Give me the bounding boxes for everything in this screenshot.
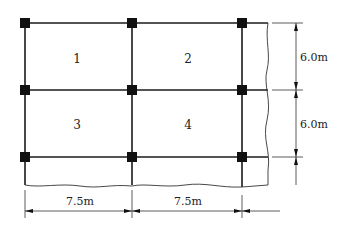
dim-label-x2: 7.5m xyxy=(174,195,202,208)
panel-label-3: 3 xyxy=(73,118,81,132)
beam-grid xyxy=(25,23,268,187)
panel-label-2: 2 xyxy=(184,52,192,66)
floor-plan-diagram: 1 2 3 4 6.0m 6.0m 7.5m 7.5m xyxy=(0,0,343,233)
dim-label-y2: 6.0m xyxy=(300,118,328,131)
panel-label-4: 4 xyxy=(184,118,192,132)
panel-label-1: 1 xyxy=(73,52,81,66)
horizontal-dimension xyxy=(25,190,280,218)
dim-label-y1: 6.0m xyxy=(300,51,328,64)
vertical-dimension xyxy=(272,23,303,185)
break-lines xyxy=(25,23,269,187)
dim-label-x1: 7.5m xyxy=(66,195,94,208)
